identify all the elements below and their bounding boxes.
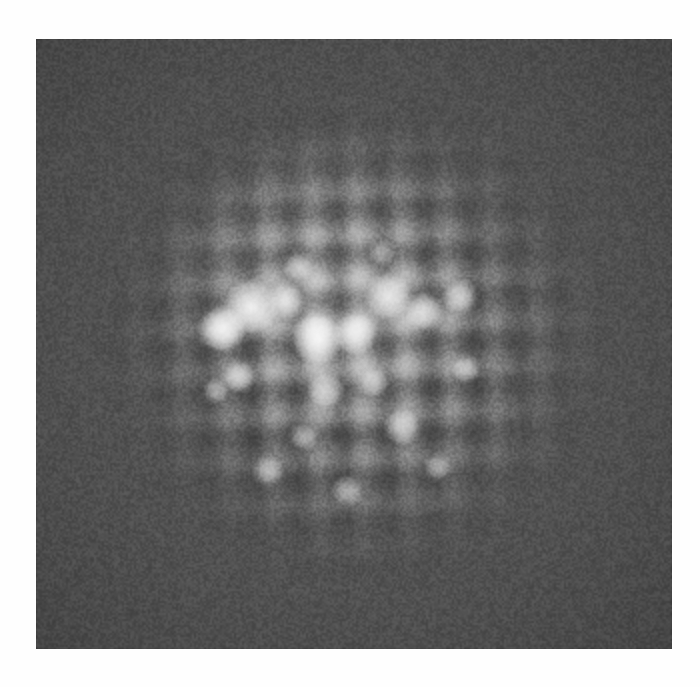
hrtem-micrograph-plate: [36, 39, 672, 649]
lattice-hotspot: [291, 424, 317, 450]
lattice-hotspot: [453, 356, 479, 382]
lattice-hotspot: [225, 281, 277, 333]
lattice-hotspot: [334, 315, 374, 355]
lattice-hotspot: [360, 369, 388, 397]
lattice-hotspot: [294, 315, 342, 363]
lattice-hotspot: [284, 253, 312, 281]
lattice-hotspot: [254, 457, 282, 485]
lattice-hotspot: [333, 476, 363, 506]
lattice-hotspot: [224, 362, 254, 392]
lattice-hotspot: [200, 307, 244, 351]
lattice-hotspot: [204, 379, 228, 403]
lattice-hotspot: [425, 454, 451, 480]
lattice-hotspot: [370, 241, 394, 265]
lattice-hotspot: [366, 275, 410, 319]
lattice-hotspot: [444, 281, 476, 313]
page-bleedthrough-text: [28, 656, 668, 682]
lattice-hotspot: [268, 283, 304, 319]
saturated-hotspot-layer: [36, 39, 672, 649]
lattice-hotspot: [309, 374, 343, 408]
scanned-page: [0, 0, 700, 687]
lattice-hotspot: [406, 293, 442, 329]
lattice-hotspot: [385, 410, 419, 444]
